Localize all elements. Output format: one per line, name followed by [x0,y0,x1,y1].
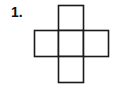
square-bottom [59,57,84,83]
square-center [59,31,84,57]
cross-net-diagram [0,0,134,91]
net-squares [35,6,109,83]
square-right [84,31,109,57]
square-top [59,6,84,31]
square-left [35,31,59,57]
